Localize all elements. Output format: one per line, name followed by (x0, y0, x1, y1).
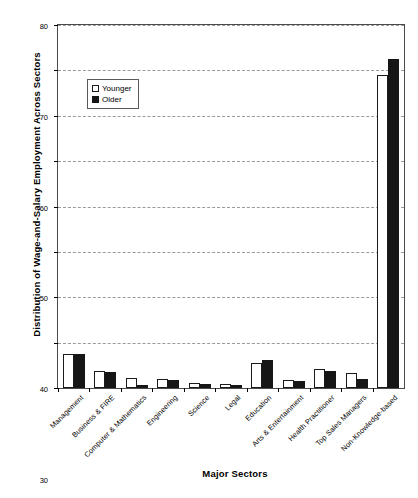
chart-legend: Younger Older (87, 79, 139, 109)
bar-group (346, 25, 368, 388)
x-tick-mark (215, 388, 216, 392)
bar-younger (126, 378, 137, 388)
bar-older (294, 381, 305, 388)
bar-group (189, 25, 211, 388)
y-tick-label: 70 (40, 112, 48, 121)
bar-younger (63, 354, 74, 388)
x-tick-mark (278, 388, 279, 392)
x-tick-mark (247, 388, 248, 392)
legend-item-younger: Younger (92, 83, 132, 94)
y-tick-label: 80 (40, 22, 48, 31)
bar-older (325, 371, 336, 388)
open-square-marker-icon (92, 85, 99, 92)
filled-square-marker-icon (92, 96, 99, 103)
bar-group (157, 25, 179, 388)
bar-younger (157, 379, 168, 388)
x-tick-mark (58, 388, 59, 392)
y-tick-label: 60 (40, 203, 48, 212)
bar-younger (283, 380, 294, 388)
x-tick-mark (152, 388, 153, 392)
bar-group (283, 25, 305, 388)
bar-younger (220, 384, 231, 388)
x-tick-mark (310, 388, 311, 392)
bar-younger (94, 371, 105, 388)
bar-group (251, 25, 273, 388)
legend-label-younger: Younger (102, 84, 132, 93)
bar-older (137, 385, 148, 388)
x-tick-mark (184, 388, 185, 392)
y-tick-label: 40 (40, 385, 48, 394)
legend-label-older: Older (102, 95, 122, 104)
bar-younger (189, 383, 200, 388)
legend-item-older: Older (92, 94, 132, 105)
x-tick-label: Legal (223, 393, 242, 412)
y-axis-title: Distribution of Wage-and-Salary Employme… (31, 5, 42, 385)
bar-group (63, 25, 85, 388)
x-tick-label: Education (244, 393, 274, 423)
x-tick-label: Science (186, 393, 211, 418)
x-tick-mark (373, 388, 374, 392)
x-tick-mark (341, 388, 342, 392)
bar-younger (377, 75, 388, 388)
bar-younger (251, 363, 262, 388)
bar-older (262, 360, 273, 388)
bar-older (357, 379, 368, 388)
y-tick-label: 50 (40, 294, 48, 303)
bar-group (220, 25, 242, 388)
bar-older (200, 384, 211, 388)
bar-younger (346, 373, 357, 388)
bar-younger (314, 369, 325, 388)
bar-group (377, 25, 399, 388)
bar-older (168, 380, 179, 388)
y-tick-label: 30 (40, 475, 48, 484)
x-tick-mark (121, 388, 122, 392)
x-axis-title: Major Sectors (60, 468, 410, 479)
x-tick-mark (89, 388, 90, 392)
bar-older (74, 354, 85, 388)
bar-older (388, 59, 399, 388)
x-tick-label: Non-Knowledge-based (339, 393, 399, 453)
bar-older (231, 385, 242, 388)
x-tick-label: Computer & Mathematics (82, 393, 148, 459)
x-tick-label: Engineering (145, 393, 180, 428)
bar-older (105, 372, 116, 388)
bar-group (314, 25, 336, 388)
